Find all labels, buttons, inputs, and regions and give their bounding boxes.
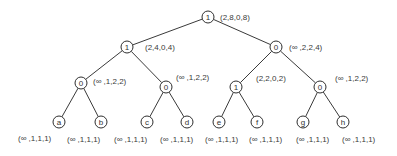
tree-edge <box>306 92 318 116</box>
tree-nodes: 1100010abcdefgh <box>53 11 349 128</box>
tree-node: f <box>251 116 263 128</box>
node-label: 1 <box>206 13 211 22</box>
tree-edge <box>131 51 162 82</box>
tree-node: e <box>213 116 225 128</box>
tree-node: g <box>297 116 309 128</box>
tree-node: h <box>337 116 349 128</box>
node-label: 0 <box>164 83 169 92</box>
node-annotation: (∞ ,1,1,1) <box>205 135 239 144</box>
node-label: b <box>99 118 104 127</box>
node-annotation: (∞ ,1,1,1) <box>249 135 283 144</box>
tree-node: 1 <box>230 81 242 93</box>
tree-edge <box>169 92 184 117</box>
node-label: 1 <box>125 43 130 52</box>
node-annotation: (∞ ,1,1,1) <box>296 135 330 144</box>
node-label: g <box>301 118 305 127</box>
node-annotation: (∞ ,1,2,2) <box>335 74 369 83</box>
tree-node: 0 <box>160 81 172 93</box>
tree-node: 0 <box>314 81 326 93</box>
tree-node: 1 <box>121 41 133 53</box>
node-annotation: (∞ ,1,1,1) <box>342 135 376 144</box>
tree-node: d <box>181 116 193 128</box>
node-annotation: (2,8,0,8) <box>220 13 250 22</box>
node-label: h <box>341 118 345 127</box>
tree-node: 0 <box>270 41 282 53</box>
node-label: 1 <box>234 83 239 92</box>
tree-edge <box>150 92 163 116</box>
tree-edges <box>62 19 340 117</box>
node-annotation: (∞ ,1,1,1) <box>114 135 148 144</box>
tree-edge <box>213 19 270 44</box>
tree-edge <box>84 88 99 116</box>
node-label: 0 <box>274 43 279 52</box>
node-annotation: (∞ ,1,2,2) <box>93 77 127 86</box>
node-label: 0 <box>79 79 84 88</box>
tree-node: c <box>141 116 153 128</box>
tree-diagram: 1100010abcdefgh (2,8,0,8)(2,4,0,4)(∞ ,2,… <box>0 0 397 156</box>
node-annotations: (2,8,0,8)(2,4,0,4)(∞ ,2,2,4)(∞ ,1,2,2)(∞… <box>18 13 376 144</box>
tree-edge <box>222 92 234 116</box>
node-annotation: (∞ ,1,1,1) <box>18 134 52 143</box>
tree-edge <box>323 92 339 117</box>
node-annotation: (∞ ,2,2,4) <box>289 43 323 52</box>
node-label: d <box>185 118 189 127</box>
node-annotation: (2,2,0,2) <box>256 74 286 83</box>
node-label: a <box>57 118 62 127</box>
node-annotation: (∞ ,1,1,1) <box>67 135 101 144</box>
node-label: 0 <box>318 83 323 92</box>
node-label: c <box>145 118 149 127</box>
tree-node: a <box>53 116 65 128</box>
node-annotation: (∞ ,1,2,2) <box>176 73 210 82</box>
tree-edge <box>86 51 123 80</box>
tree-edge <box>133 19 203 45</box>
node-annotation: (∞ ,1,1,1) <box>160 135 194 144</box>
tree-node: b <box>95 116 107 128</box>
tree-node: 0 <box>75 77 87 89</box>
node-annotation: (2,4,0,4) <box>145 43 175 52</box>
node-label: e <box>217 118 222 127</box>
tree-edge <box>62 88 78 117</box>
tree-node: 1 <box>202 11 214 23</box>
tree-edge <box>239 92 254 117</box>
